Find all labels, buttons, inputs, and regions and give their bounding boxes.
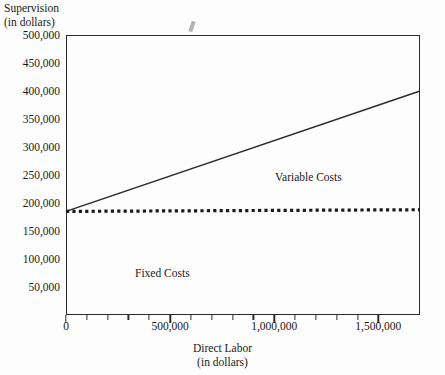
y-tick-label: 350,000 (0, 113, 66, 125)
x-tick-minor (107, 315, 108, 320)
plot-area (66, 35, 420, 315)
chart-figure: Supervision (in dollars) 500,000450,0004… (0, 0, 445, 375)
x-tick-minor (128, 315, 129, 320)
x-axis-title-line1: Direct Labor (193, 342, 252, 354)
annotation-fixed-costs: Fixed Costs (135, 267, 190, 280)
annotation-variable-costs: Variable Costs (275, 171, 342, 184)
y-tick-label: 400,000 (0, 85, 66, 97)
x-tick-label: 500,000 (151, 320, 188, 332)
y-tick-label: 150,000 (0, 225, 66, 237)
x-tick-minor (315, 315, 316, 320)
x-axis-title-line2: (in dollars) (0, 355, 445, 369)
x-tick-minor (149, 315, 150, 320)
x-tick-label: 1,000,000 (251, 320, 297, 332)
y-tick-label: 250,000 (0, 169, 66, 181)
y-tick-label: 50,000 (0, 281, 66, 293)
y-tick-label: 100,000 (0, 253, 66, 265)
x-axis-title: Direct Labor (in dollars) (0, 341, 445, 369)
y-tick-label: 200,000 (0, 197, 66, 209)
scan-artifact (188, 21, 195, 33)
x-tick-minor (336, 315, 337, 320)
x-tick-minor (232, 315, 233, 320)
x-tick-label: 1,500,000 (355, 320, 401, 332)
y-axis-title: Supervision (in dollars) (4, 1, 59, 29)
y-tick-label: 500,000 (0, 29, 66, 41)
x-tick-minor (211, 315, 212, 320)
y-tick-label: 450,000 (0, 57, 66, 69)
x-tick-minor (86, 315, 87, 320)
y-tick-label: 300,000 (0, 141, 66, 153)
x-tick-minor (294, 315, 295, 320)
x-tick-minor (190, 315, 191, 320)
x-tick-label: 0 (63, 320, 69, 332)
y-axis-title-line2: (in dollars) (4, 15, 59, 29)
y-axis-title-line1: Supervision (4, 2, 59, 14)
